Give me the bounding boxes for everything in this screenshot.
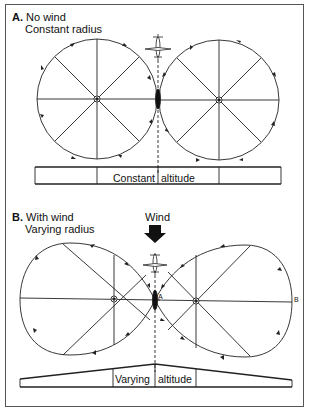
eights-on-pylons-diagram xyxy=(0,0,309,412)
varying-label: Varying xyxy=(115,373,150,385)
constant-label: Constant xyxy=(113,172,155,184)
airplane-icon xyxy=(143,253,167,275)
panel-b-pylon-marker xyxy=(153,290,158,310)
constant-altitude-bar xyxy=(35,167,281,184)
panel-b-left-loop xyxy=(20,243,160,355)
point-b-label: B xyxy=(294,296,299,303)
panel-b-right-loop xyxy=(155,245,292,357)
altitude-label-a: altitude xyxy=(161,172,195,184)
point-a-label: A xyxy=(158,293,163,300)
airplane-icon xyxy=(145,34,171,60)
altitude-label-b: altitude xyxy=(158,373,192,385)
panel-a-pylon-marker xyxy=(156,89,161,109)
wind-arrow-icon xyxy=(144,225,166,243)
panel-a-right-circle xyxy=(159,40,279,160)
varying-altitude-bar xyxy=(20,364,292,387)
panel-a-left-circle xyxy=(37,39,157,159)
